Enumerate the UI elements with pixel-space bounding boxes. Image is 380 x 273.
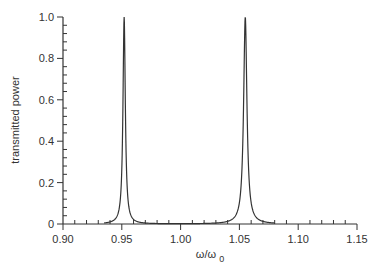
- x-tick-label: 1.00: [170, 233, 191, 245]
- x-tick-label: 0.95: [111, 233, 132, 245]
- y-axis: 00.20.40.60.81.0: [39, 11, 67, 230]
- y-tick-label: 0.2: [39, 177, 54, 189]
- y-tick-label: 1.0: [39, 11, 54, 23]
- x-tick-label: 0.90: [52, 233, 73, 245]
- x-axis-label-main: ω/ω: [196, 248, 217, 260]
- x-axis-label: ω/ω 0: [196, 248, 224, 264]
- y-tick-label: 0: [48, 218, 54, 230]
- y-axis-label: transmitted power: [9, 76, 21, 164]
- transmission-curve: [104, 17, 275, 224]
- x-axis-label-subscript: 0: [219, 254, 224, 264]
- x-tick-label: 1.10: [287, 233, 308, 245]
- y-tick-label: 0.6: [39, 94, 54, 106]
- chart: 00.20.40.60.81.0 0.900.951.001.051.101.1…: [0, 0, 380, 273]
- x-tick-label: 1.05: [229, 233, 250, 245]
- x-tick-label: 1.15: [346, 233, 367, 245]
- y-tick-label: 0.8: [39, 52, 54, 64]
- y-tick-label: 0.4: [39, 135, 54, 147]
